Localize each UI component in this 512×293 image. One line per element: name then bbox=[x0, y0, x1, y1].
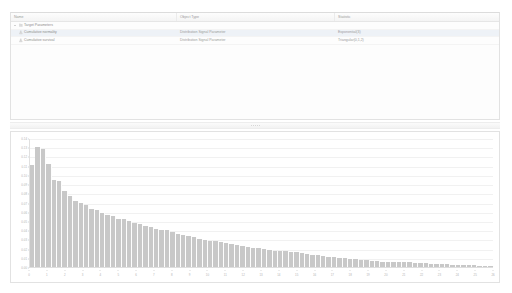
x-axis-tick-label: 26 bbox=[491, 274, 494, 277]
grip-dot bbox=[251, 125, 252, 126]
x-axis-tick-mark bbox=[368, 270, 369, 271]
x-axis-tick-mark bbox=[100, 270, 101, 271]
y-axis-tick-label: 0.08 bbox=[21, 193, 27, 196]
column-header-value[interactable]: Statistic bbox=[335, 13, 499, 21]
x-axis-tick-mark bbox=[261, 270, 262, 271]
x-axis-tick-label: 24 bbox=[456, 274, 459, 277]
x-axis-tick-label: 21 bbox=[402, 274, 405, 277]
x-axis-tick-mark bbox=[64, 270, 65, 271]
x-axis-tick-mark bbox=[225, 270, 226, 271]
x-axis-tick-mark bbox=[350, 270, 351, 271]
x-axis-tick-label: 19 bbox=[366, 274, 369, 277]
x-axis-tick-mark bbox=[493, 270, 494, 271]
y-axis-tick-label: 0.02 bbox=[21, 248, 27, 251]
y-axis-tick-label: 0.03 bbox=[21, 239, 27, 242]
tree-row-value-cell: Triangular(0,1,2) bbox=[335, 37, 499, 45]
x-axis-tick-label: 17 bbox=[331, 274, 334, 277]
x-axis-tick-mark bbox=[296, 270, 297, 271]
x-axis-tick-mark bbox=[46, 270, 47, 271]
y-axis-tick-label: 0.13 bbox=[21, 147, 27, 150]
y-axis-labels: 0.000.010.020.030.040.050.060.070.080.09… bbox=[11, 139, 29, 268]
y-axis-tick-label: 0.04 bbox=[21, 230, 27, 233]
x-axis-tick-mark bbox=[243, 270, 244, 271]
x-axis-tick-mark bbox=[475, 270, 476, 271]
tree-body: Target ParametersCumulative normalityDis… bbox=[11, 22, 499, 45]
x-axis-tick-label: 8 bbox=[171, 274, 173, 277]
grip-dot bbox=[255, 125, 256, 126]
tree-row-name-cell[interactable]: Cumulative normality bbox=[11, 29, 177, 37]
x-axis-tick-label: 5 bbox=[117, 274, 119, 277]
signal-leaf-icon bbox=[19, 30, 23, 35]
grip-dot bbox=[257, 125, 258, 126]
splitter-grip-icon[interactable] bbox=[248, 125, 262, 127]
horizontal-splitter[interactable] bbox=[10, 122, 500, 129]
x-axis-tick-label: 20 bbox=[384, 274, 387, 277]
grip-dot bbox=[259, 125, 260, 126]
tree-row-name-cell[interactable]: Cumulative survival bbox=[11, 37, 177, 45]
y-axis-tick-label: 0.05 bbox=[21, 220, 27, 223]
x-axis-tick-label: 6 bbox=[135, 274, 137, 277]
x-axis-tick-mark bbox=[421, 270, 422, 271]
y-axis-tick-label: 0.11 bbox=[22, 165, 27, 168]
x-axis-tick-label: 16 bbox=[313, 274, 316, 277]
x-axis-tick-label: 10 bbox=[206, 274, 209, 277]
x-axis-line bbox=[29, 267, 493, 268]
x-axis-tick-mark bbox=[29, 270, 30, 271]
tree-row-label: Target Parameters bbox=[24, 22, 53, 30]
x-axis-tick-label: 12 bbox=[242, 274, 245, 277]
y-axis-tick-label: 0.00 bbox=[21, 267, 27, 270]
x-axis-tick-mark bbox=[385, 270, 386, 271]
application-window: Name Object Type Statistic Target Parame… bbox=[0, 0, 512, 293]
x-axis-tick-label: 11 bbox=[224, 274, 227, 277]
x-axis-tick-mark bbox=[439, 270, 440, 271]
histogram-bars[interactable] bbox=[30, 139, 493, 267]
x-axis-tick-label: 22 bbox=[420, 274, 423, 277]
histogram-bar[interactable] bbox=[488, 266, 493, 267]
x-axis-tick-label: 1 bbox=[46, 274, 48, 277]
distribution-chart-panel[interactable]: 0.000.010.020.030.040.050.060.070.080.09… bbox=[10, 131, 500, 283]
x-axis-tick-label: 0 bbox=[28, 274, 30, 277]
y-axis-tick-label: 0.07 bbox=[21, 202, 27, 205]
x-axis-tick-mark bbox=[207, 270, 208, 271]
x-axis-tick-label: 7 bbox=[153, 274, 155, 277]
x-axis-tick-mark bbox=[171, 270, 172, 271]
x-axis-tick-label: 25 bbox=[474, 274, 477, 277]
column-header-type[interactable]: Object Type bbox=[177, 13, 335, 21]
tree-row-type-cell: Distribution Signal Parameter bbox=[177, 29, 335, 37]
x-axis-tick-mark bbox=[153, 270, 154, 271]
tree-row[interactable]: Cumulative survivalDistribution Signal P… bbox=[11, 37, 499, 45]
grip-dot bbox=[253, 125, 254, 126]
x-axis-tick-label: 14 bbox=[277, 274, 280, 277]
y-axis-tick-label: 0.06 bbox=[21, 211, 27, 214]
tree-row-label: Cumulative survival bbox=[24, 37, 54, 45]
x-axis-tick-label: 9 bbox=[189, 274, 191, 277]
x-axis-tick-mark bbox=[403, 270, 404, 271]
x-axis-tick-label: 2 bbox=[64, 274, 66, 277]
folder-node-icon bbox=[19, 23, 23, 27]
x-axis-tick-mark bbox=[332, 270, 333, 271]
plot-area[interactable] bbox=[29, 139, 493, 268]
x-axis-tick-label: 23 bbox=[438, 274, 441, 277]
y-axis-tick-label: 0.01 bbox=[21, 257, 27, 260]
tree-row-value-cell: Exponential(3) bbox=[335, 29, 499, 37]
x-axis-tick-mark bbox=[136, 270, 137, 271]
x-axis-tick-mark bbox=[118, 270, 119, 271]
x-axis-tick-label: 3 bbox=[82, 274, 84, 277]
x-axis-tick-mark bbox=[189, 270, 190, 271]
y-axis-tick-label: 0.14 bbox=[21, 138, 27, 141]
column-header-name[interactable]: Name bbox=[11, 13, 177, 21]
tree-row-type-cell: Distribution Signal Parameter bbox=[177, 37, 335, 45]
y-axis-tick-label: 0.10 bbox=[21, 174, 27, 177]
signal-leaf-icon bbox=[19, 38, 23, 43]
chevron-down-icon[interactable] bbox=[14, 24, 18, 28]
x-axis-labels: 0123456789101112131415161718192021222324… bbox=[29, 270, 493, 280]
x-axis-tick-mark bbox=[278, 270, 279, 271]
parameters-tree-panel[interactable]: Name Object Type Statistic Target Parame… bbox=[10, 12, 500, 120]
y-axis-tick-label: 0.09 bbox=[21, 184, 27, 187]
tree-row-label: Cumulative normality bbox=[24, 29, 57, 37]
x-axis-tick-label: 13 bbox=[259, 274, 262, 277]
x-axis-tick-mark bbox=[82, 270, 83, 271]
tree-row-name-cell[interactable]: Target Parameters bbox=[11, 22, 177, 30]
x-axis-tick-label: 4 bbox=[100, 274, 102, 277]
x-axis-tick-label: 15 bbox=[295, 274, 298, 277]
